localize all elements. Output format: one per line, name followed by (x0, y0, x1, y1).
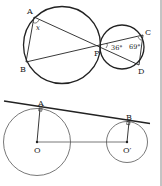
label-P: P (94, 49, 100, 58)
large-circle (24, 7, 101, 84)
label-D: D (138, 67, 144, 76)
label-B-bottom: B (126, 113, 132, 122)
geometry-figure: A B P C D x 36° 69° A B O O′ (0, 0, 162, 186)
angle-arc-A (33, 20, 39, 23)
label-A-bottom: A (37, 99, 44, 108)
label-angle-x: x (36, 24, 40, 32)
label-O-prime: O′ (123, 146, 132, 155)
label-C: C (145, 28, 151, 37)
figure-bottom: A B O O′ (4, 99, 151, 176)
label-angle-36: 36° (111, 44, 123, 52)
radius-OA (37, 109, 40, 143)
center-point-O-prime (126, 141, 128, 143)
segment-AD (34, 17, 139, 65)
label-O: O (34, 146, 41, 155)
center-point-O (36, 141, 38, 143)
label-B-top: B (20, 65, 26, 74)
label-angle-69: 69° (129, 43, 141, 51)
radius-O-prime-B (127, 122, 129, 142)
label-A-top: A (26, 7, 33, 16)
figure-top: A B P C D x 36° 69° (20, 7, 151, 84)
segment-BC (26, 35, 143, 62)
